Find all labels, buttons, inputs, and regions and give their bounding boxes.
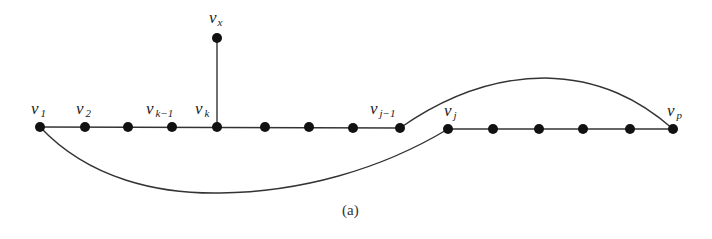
node-vj-1 xyxy=(395,123,405,133)
node-13 xyxy=(578,124,588,134)
node-v1 xyxy=(35,122,45,132)
label-vx: vx xyxy=(209,8,223,28)
node-vk-1 xyxy=(167,122,177,132)
node-7 xyxy=(304,122,314,132)
node-8 xyxy=(348,123,358,133)
label-vj-1: vj−1 xyxy=(370,99,396,119)
label-v1: v1 xyxy=(31,99,46,119)
label-vj: vj xyxy=(444,101,457,121)
graph-diagram: v1 v2 vk−1 vk vj−1 vj vp vx (a) xyxy=(0,0,712,239)
edges xyxy=(40,38,673,193)
node-vj xyxy=(443,124,453,134)
labels: v1 v2 vk−1 vk vj−1 vj vp vx xyxy=(31,8,683,121)
node-6 xyxy=(260,122,270,132)
node-v2 xyxy=(80,122,90,132)
nodes xyxy=(35,33,678,134)
figure-caption: (a) xyxy=(342,202,359,219)
edge-curve-vj-1-vp xyxy=(400,78,673,129)
node-vx xyxy=(212,33,222,43)
node-11 xyxy=(488,124,498,134)
node-vp xyxy=(668,124,678,134)
label-v2: v2 xyxy=(76,99,92,119)
node-14 xyxy=(625,124,635,134)
node-12 xyxy=(534,124,544,134)
edge-curve-v1-vj xyxy=(40,127,448,193)
node-3 xyxy=(123,122,133,132)
label-vk-1: vk−1 xyxy=(146,99,173,119)
label-vp: vp xyxy=(667,101,683,121)
label-vk: vk xyxy=(195,99,211,119)
node-vk xyxy=(212,122,222,132)
